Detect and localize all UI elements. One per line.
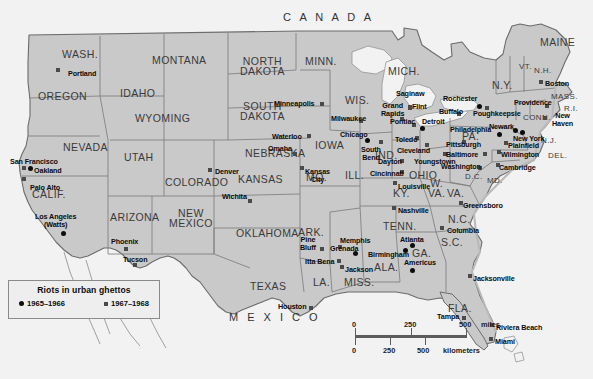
state-label-w-va: W. VA. <box>428 178 445 198</box>
state-label-wash: WASH. <box>62 49 98 59</box>
city-label-denver: Denver <box>215 168 239 175</box>
city-label-baltimore: Baltimore <box>446 151 478 158</box>
city-label-philadelphia: Philadelphia <box>450 126 491 133</box>
city-marker-houston <box>309 306 313 310</box>
city-label-wilmington: Wilmington <box>501 151 539 158</box>
scale-label-km-250: 250 <box>383 346 395 355</box>
map-scale-bar: 0 250 500 miles 0 250 500 kilometers <box>355 323 495 357</box>
city-label-boston: Boston <box>545 80 569 87</box>
city-marker-pine-bluff <box>320 247 324 251</box>
city-label-los-angeles-watts: Los Angeles (Watts) <box>35 213 76 228</box>
city-label-phoenix: Phoenix <box>111 238 138 245</box>
state-label-maine: MAINE <box>540 37 575 47</box>
city-label-newark: Newark <box>489 123 514 130</box>
city-label-buffalo: Buffalo <box>439 108 463 115</box>
legend-dot-icon <box>19 301 24 306</box>
scale-label-miles-250: 250 <box>404 320 416 329</box>
scale-tick-miles-0 <box>355 328 356 336</box>
city-marker-waterloo <box>307 134 311 138</box>
state-label-n-c: N.C. <box>448 214 471 224</box>
state-label-texas: TEXAS <box>250 281 286 291</box>
city-label-jacksonville: Jacksonville <box>473 275 515 282</box>
state-label-north-dakota: NORTH DAKOTA <box>240 56 285 76</box>
state-label-wyoming: WYOMING <box>135 113 190 123</box>
riot-map: C A N A D AM E X I C OWASH.OREGONIDAHOMO… <box>0 0 593 379</box>
scale-tick-miles-250 <box>411 328 412 336</box>
city-label-tampa: Tampa <box>437 313 459 320</box>
city-marker-oakland <box>28 166 33 171</box>
city-label-cleveland: Cleveland <box>397 147 430 154</box>
city-label-new-york: New York <box>513 135 544 142</box>
city-label-saginaw: Saginaw <box>396 90 424 97</box>
state-label-montana: MONTANA <box>152 55 207 65</box>
city-marker-louisville <box>393 181 397 185</box>
city-label-nashville: Nashville <box>398 207 429 214</box>
city-label-waterloo: Waterloo <box>272 133 302 140</box>
city-label-pine-bluff: Pine Bluff <box>300 236 316 251</box>
city-label-miami: Miami <box>495 338 515 345</box>
state-label-kansas: KANSAS <box>238 174 283 184</box>
state-label-oklahoma: OKLAHOMA <box>236 228 299 238</box>
city-label-san-francisco: San Francisco <box>10 158 58 165</box>
city-label-plainfield: Plainfield <box>508 142 539 149</box>
city-label-tucson: Tucson <box>123 256 147 263</box>
city-label-detroit: Detroit <box>422 118 444 125</box>
state-label-d-c: D.C. <box>465 172 483 182</box>
city-label-portland: Portland <box>68 70 96 77</box>
state-label-minn: MINN. <box>305 56 337 66</box>
city-label-kansas-city: Kansas City <box>305 168 330 183</box>
legend-item-1967-1968: 1967–1968 <box>104 299 149 308</box>
city-marker-los-angeles-watts <box>61 231 66 236</box>
state-label-ga: GA. <box>412 248 431 258</box>
city-label-grenada: Grenada <box>330 245 358 252</box>
city-marker-palo-alto <box>22 177 26 181</box>
city-marker-baltimore <box>483 152 487 156</box>
city-label-wichita: Wichita <box>222 193 247 200</box>
city-label-rochester: Rochester <box>443 95 477 102</box>
city-label-pittsburgh: Pittsburgh <box>446 141 481 148</box>
city-marker-itta-bena <box>337 259 341 263</box>
state-label-la: LA. <box>313 277 330 287</box>
state-label-idaho: IDAHO <box>120 88 155 98</box>
city-label-houston: Houston <box>278 303 306 310</box>
city-label-chicago: Chicago <box>340 131 368 138</box>
canada-label: C A N A D A <box>283 12 374 23</box>
state-label-md: MD. <box>487 176 503 186</box>
city-marker-omaha <box>293 152 297 156</box>
scale-unit-miles: miles <box>481 320 500 329</box>
city-marker-nashville <box>392 206 396 210</box>
city-marker-phoenix <box>124 247 128 251</box>
legend-label-1967-1968: 1967–1968 <box>111 299 149 308</box>
scale-unit-km: kilometers <box>443 346 480 355</box>
state-label-utah: UTAH <box>124 152 153 162</box>
map-legend: Riots in urban ghettos 1965–1966 1967–19… <box>8 280 160 319</box>
city-label-toledo: Toledo <box>395 136 417 143</box>
state-label-colorado: COLORADO <box>165 177 228 187</box>
scale-label-km-500: 500 <box>417 346 429 355</box>
city-marker-americus <box>410 268 415 273</box>
scale-tick-km-0 <box>355 337 356 345</box>
city-marker-new-haven <box>543 116 547 120</box>
city-marker-kansas-city <box>300 166 304 170</box>
city-label-birmingham: Birmingham <box>368 251 409 258</box>
scale-tick-km-500 <box>425 337 426 345</box>
city-label-columbia: Columbia <box>447 227 479 234</box>
city-label-omaha: Omaha <box>268 145 292 152</box>
city-label-riviera-beach: Riviera Beach <box>496 324 542 331</box>
state-label-mass: MASS. <box>551 92 578 102</box>
city-label-providence: Providence <box>514 99 552 106</box>
city-marker-portland <box>56 68 60 72</box>
state-label-vt: VT. <box>519 62 532 72</box>
city-label-louisville: Louisville <box>398 183 430 190</box>
city-label-jackson: Jackson <box>345 266 373 273</box>
city-label-new-haven: New Haven <box>552 112 573 127</box>
state-label-n-h: N.H. <box>534 66 552 76</box>
city-label-pontiac: Pontiac <box>390 118 415 125</box>
state-label-n-y: N.Y. <box>492 80 513 90</box>
city-label-dayton: Dayton <box>378 158 402 165</box>
scale-tick-km-250 <box>390 337 391 345</box>
state-label-new-mexico: NEW MEXICO <box>169 208 213 228</box>
state-label-va: VA. <box>447 188 464 198</box>
legend-item-1965-1966: 1965–1966 <box>19 299 65 308</box>
city-label-greensboro: Greensboro <box>463 202 503 209</box>
